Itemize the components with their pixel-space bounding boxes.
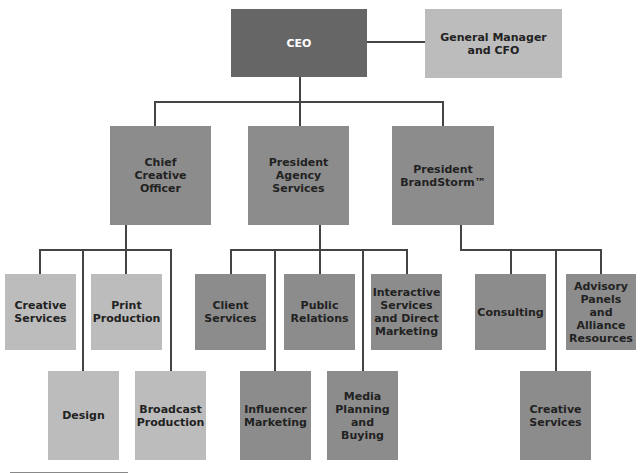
connector bbox=[170, 249, 172, 371]
connector bbox=[319, 225, 321, 250]
connector bbox=[125, 225, 127, 250]
connector bbox=[460, 249, 602, 251]
broadcast-production-box: Broadcast Production bbox=[135, 371, 206, 460]
connector bbox=[555, 249, 557, 371]
connector bbox=[460, 225, 462, 250]
connector bbox=[362, 249, 364, 371]
media-planning-box: Media Planning and Buying bbox=[327, 371, 398, 460]
interactive-services-box: Interactive Services and Direct Marketin… bbox=[371, 274, 442, 350]
president-agency-box: President Agency Services bbox=[248, 126, 349, 225]
client-services-box: Client Services bbox=[195, 274, 266, 350]
connector bbox=[299, 77, 301, 102]
connector bbox=[39, 249, 41, 274]
cco-box: Chief Creative Officer bbox=[110, 126, 211, 225]
connector bbox=[125, 249, 127, 274]
influencer-marketing-box: Influencer Marketing bbox=[240, 371, 311, 460]
connector bbox=[510, 249, 512, 274]
design-box: Design bbox=[48, 371, 119, 460]
connector bbox=[319, 249, 321, 274]
brandstorm-creative-services-box: Creative Services bbox=[520, 371, 591, 460]
public-relations-box: Public Relations bbox=[284, 274, 355, 350]
gm-cfo-box: General Manager and CFO bbox=[425, 9, 562, 78]
connector bbox=[154, 101, 156, 126]
connector bbox=[274, 249, 276, 371]
consulting-box: Consulting bbox=[475, 274, 546, 350]
connector bbox=[367, 41, 425, 43]
connector bbox=[406, 249, 408, 274]
connector bbox=[442, 101, 444, 126]
connector bbox=[39, 249, 172, 251]
print-production-box: Print Production bbox=[91, 274, 162, 350]
advisory-panels-box: Advisory Panels and Alliance Resources bbox=[566, 274, 636, 350]
creative-services-box: Creative Services bbox=[5, 274, 76, 350]
connector bbox=[299, 101, 301, 126]
connector bbox=[600, 249, 602, 274]
ceo-box: CEO bbox=[231, 9, 367, 77]
president-brandstorm-box: President BrandStorm™ bbox=[392, 126, 494, 225]
connector bbox=[230, 249, 232, 274]
connector bbox=[82, 249, 84, 371]
